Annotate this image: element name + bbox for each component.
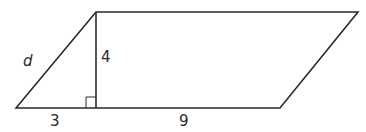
slant-side-label: d [23, 54, 33, 69]
height-label: 4 [101, 50, 111, 65]
right-angle-marker [86, 97, 96, 108]
base-right-segment-label: 9 [179, 114, 189, 129]
base-left-segment-label: 3 [50, 114, 60, 129]
parallelogram-shape [16, 12, 358, 108]
